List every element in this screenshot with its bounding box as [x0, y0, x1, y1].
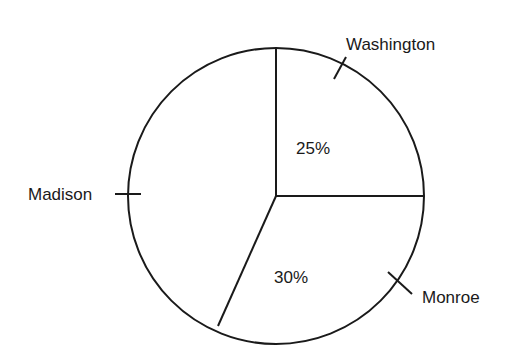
madison-label: Madison [28, 185, 92, 204]
monroe-label: Monroe [422, 288, 480, 307]
monroe-percent: 30% [274, 268, 308, 287]
pie-chart: Washington Madison Monroe 25% 30% [0, 0, 518, 364]
washington-label: Washington [346, 35, 435, 54]
washington-percent: 25% [296, 139, 330, 158]
